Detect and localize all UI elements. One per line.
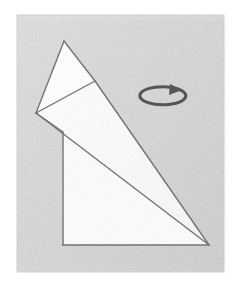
- diagram-canvas: [0, 0, 242, 291]
- origami-figure: Origami folding step diagram Folded pape…: [0, 0, 242, 291]
